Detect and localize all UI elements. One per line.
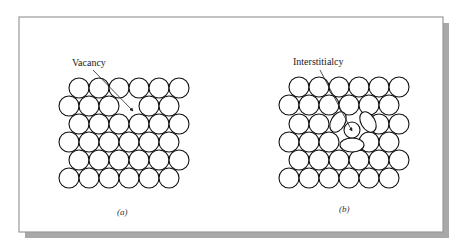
- atom: [389, 77, 409, 97]
- atom: [169, 78, 189, 98]
- atom: [329, 150, 349, 170]
- atom: [149, 78, 169, 98]
- atom: [299, 95, 319, 115]
- atom: [139, 96, 159, 116]
- atom: [279, 168, 299, 188]
- atom: [369, 150, 389, 170]
- atom: [59, 168, 79, 188]
- atom: [129, 78, 149, 98]
- atom: [139, 132, 159, 152]
- caption-b: (b): [339, 204, 350, 214]
- atom: [319, 95, 339, 115]
- interstitial-atom: [344, 122, 360, 138]
- vacancy-label: Vacancy: [72, 57, 106, 68]
- atom: [389, 114, 409, 134]
- atom: [349, 150, 369, 170]
- atom: [379, 132, 399, 152]
- atom: [79, 132, 99, 152]
- atom: [119, 132, 139, 152]
- atom: [309, 77, 329, 97]
- atom: [129, 150, 149, 170]
- atom: [299, 132, 319, 152]
- atom: [319, 132, 339, 152]
- atom: [279, 95, 299, 115]
- atom: [69, 150, 89, 170]
- atom: [79, 96, 99, 116]
- atom: [309, 114, 329, 134]
- interstitialcy-label: Interstitialcy: [293, 56, 344, 67]
- atom: [359, 95, 379, 115]
- atom: [159, 96, 179, 116]
- atom: [279, 132, 299, 152]
- atom: [109, 78, 129, 98]
- atom: [289, 114, 309, 134]
- atom: [299, 168, 319, 188]
- atom: [59, 96, 79, 116]
- atom: [149, 150, 169, 170]
- atom: [89, 114, 109, 134]
- atom: [119, 168, 139, 188]
- atom: [59, 132, 79, 152]
- atom: [89, 78, 109, 98]
- atom: [169, 114, 189, 134]
- atom: [329, 77, 349, 97]
- atom: [69, 114, 89, 134]
- atom: [149, 114, 169, 134]
- atom: [99, 168, 119, 188]
- atom: [99, 96, 119, 116]
- atom: [69, 78, 89, 98]
- atom: [89, 150, 109, 170]
- atom: [309, 150, 329, 170]
- atom: [389, 150, 409, 170]
- atom: [109, 150, 129, 170]
- atom: [109, 114, 129, 134]
- atom: [359, 168, 379, 188]
- atom: [289, 77, 309, 97]
- distorted-atom: [340, 138, 364, 152]
- atom: [139, 168, 159, 188]
- atom: [159, 168, 179, 188]
- atom: [289, 150, 309, 170]
- atom: [79, 168, 99, 188]
- atom: [129, 114, 149, 134]
- atom: [379, 95, 399, 115]
- caption-a: (a): [117, 207, 128, 217]
- atom: [369, 77, 389, 97]
- atom: [339, 168, 359, 188]
- atom: [379, 168, 399, 188]
- defect-diagram: Vacancy (a) Interstitialcy (b): [0, 0, 464, 249]
- atom: [349, 77, 369, 97]
- atom: [99, 132, 119, 152]
- atom: [169, 150, 189, 170]
- atom: [159, 132, 179, 152]
- atom: [319, 168, 339, 188]
